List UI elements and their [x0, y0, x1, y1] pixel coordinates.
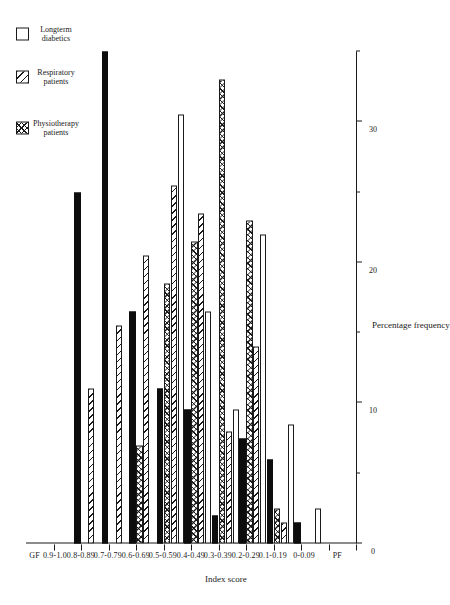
- category-tick-label: 0.5-0.59: [149, 551, 177, 560]
- category-tick: [191, 544, 192, 550]
- category-tick: [329, 544, 330, 550]
- value-tick-major: [356, 542, 362, 543]
- value-tick-minor: [356, 331, 360, 332]
- value-tick-label: 0: [371, 546, 375, 555]
- legend-swatch: [16, 27, 29, 40]
- bar: [233, 409, 239, 543]
- value-axis-title: Percentage frequency: [372, 319, 450, 329]
- legend-item: Physiotherapy patients: [16, 104, 65, 150]
- category-tick: [136, 544, 137, 550]
- category-tick-label: PF: [333, 551, 342, 560]
- bar: [198, 213, 204, 543]
- category-tick: [301, 544, 302, 550]
- value-tick-label: 10: [369, 405, 377, 414]
- legend-label: Physiotherapy patients: [33, 118, 79, 136]
- category-tick: [246, 544, 247, 550]
- value-tick-minor: [356, 50, 360, 51]
- bar: [267, 459, 273, 543]
- bar: [74, 192, 80, 543]
- category-tick: [109, 544, 110, 550]
- bar: [274, 508, 280, 543]
- bar: [171, 185, 177, 543]
- value-tick-label: 30: [369, 124, 377, 133]
- value-tick-minor: [356, 191, 360, 192]
- category-tick-label: 0.7-0.79: [94, 551, 122, 560]
- bar: [253, 346, 259, 543]
- legend-item: General medical patients: [16, 0, 65, 8]
- category-tick-label: 0.1-0.19: [259, 551, 287, 560]
- bar: [219, 79, 225, 543]
- category-tick-label: GF: [29, 551, 40, 560]
- legend-item: Longterm diabetics: [16, 17, 65, 49]
- category-tick-label: 0.6-0.69: [121, 551, 149, 560]
- bar: [226, 431, 232, 543]
- category-tick: [274, 544, 275, 550]
- bar: [212, 515, 218, 543]
- bar: [157, 388, 163, 543]
- bar: [246, 220, 252, 543]
- legend-swatch: [16, 121, 29, 134]
- value-tick-major: [356, 261, 362, 262]
- legend-item: Respiratory patients: [16, 58, 65, 95]
- category-tick: [164, 544, 165, 550]
- chart-legend: Physiotherapy patientsRespiratory patien…: [16, 0, 65, 150]
- bar: [288, 424, 294, 543]
- bar: [178, 114, 184, 543]
- category-tick-label: 0-0.09: [293, 551, 315, 560]
- bar: [184, 409, 190, 543]
- category-tick-label: 0.9-1.0: [43, 551, 67, 560]
- category-tick: [54, 544, 55, 550]
- category-tick: [356, 544, 357, 550]
- category-tick-label: 0.8-0.89: [66, 551, 94, 560]
- category-tick: [219, 544, 220, 550]
- legend-swatch: [16, 70, 29, 83]
- category-tick: [81, 544, 82, 550]
- bar: [164, 283, 170, 543]
- bar: [205, 311, 211, 543]
- bar: [239, 438, 245, 543]
- bar: [315, 508, 321, 543]
- value-tick-minor: [356, 472, 360, 473]
- bar: [116, 325, 122, 543]
- legend-label: Longterm diabetics: [40, 24, 72, 42]
- category-axis-line: [356, 51, 357, 543]
- value-tick-major: [356, 401, 362, 402]
- legend-label: Respiratory patients: [37, 68, 74, 86]
- bar: [102, 51, 108, 543]
- bar: [143, 255, 149, 543]
- category-axis-title: Index score: [205, 573, 247, 583]
- bar: [129, 311, 135, 543]
- bar: [191, 241, 197, 543]
- value-tick-label: 20: [369, 265, 377, 274]
- bar: [294, 522, 300, 543]
- category-tick-label: 0.4-0.49: [176, 551, 204, 560]
- bar: [281, 522, 287, 543]
- category-tick-label: 0.2-0.29: [231, 551, 259, 560]
- bar: [88, 388, 94, 543]
- category-tick-label: 0.3-0.39: [204, 551, 232, 560]
- bar: [260, 234, 266, 543]
- value-tick-major: [356, 120, 362, 121]
- bar: [136, 445, 142, 543]
